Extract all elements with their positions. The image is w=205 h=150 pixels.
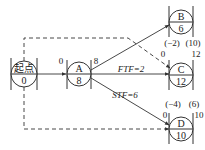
c-early-finish: 12 bbox=[192, 49, 201, 59]
node-a-name: A bbox=[75, 63, 83, 74]
node-d-name: D bbox=[177, 118, 184, 129]
c-early-start: 0 bbox=[161, 49, 166, 59]
d-early-start: 0 bbox=[163, 110, 168, 120]
node-b-duration: 6 bbox=[179, 23, 184, 34]
node-a-duration: 8 bbox=[77, 75, 82, 86]
link-a-to-c-label: FTF=2 bbox=[117, 64, 145, 74]
node-start: 起点 0 bbox=[11, 58, 37, 90]
d-early-start-paren: (−4) bbox=[165, 99, 181, 109]
node-d-duration: 10 bbox=[176, 130, 186, 141]
a-early-finish: 8 bbox=[94, 56, 99, 66]
node-start-duration: 0 bbox=[22, 75, 27, 86]
d-early-finish-paren: (6) bbox=[189, 99, 200, 109]
node-start-name: 起点 bbox=[14, 63, 34, 74]
a-early-start: 0 bbox=[59, 56, 64, 66]
node-b-name: B bbox=[178, 11, 185, 22]
node-d: D 10 bbox=[169, 113, 193, 144]
link-start-to-d-dashed bbox=[24, 87, 169, 129]
network-diagram: 起点 0 A 8 0 8 B 6 (−2) (10) C 12 0 12 bbox=[0, 0, 204, 150]
link-a-to-d bbox=[91, 78, 169, 125]
b-early-finish: (10) bbox=[186, 38, 201, 48]
node-c: C 12 bbox=[169, 60, 193, 90]
d-early-finish: 10 bbox=[195, 110, 205, 120]
node-c-name: C bbox=[178, 64, 185, 75]
node-c-duration: 12 bbox=[176, 76, 186, 87]
link-a-to-d-label: STF=6 bbox=[112, 90, 138, 100]
node-a: A 8 bbox=[67, 60, 91, 89]
node-b: B 6 bbox=[169, 6, 193, 37]
b-early-start: (−2) bbox=[164, 38, 180, 48]
